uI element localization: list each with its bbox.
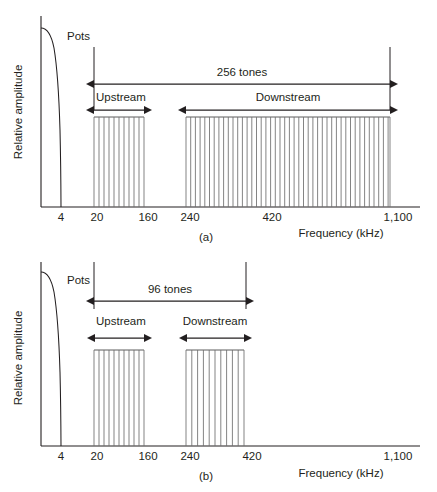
x-tick-label-b-2: 160 [138,450,157,462]
x-tick-label-a-3: 240 [180,211,199,223]
x-tick-label-a-1: 20 [91,211,104,223]
downstream-tone-comb-a [186,117,390,207]
pots-label-b: Pots [67,274,90,286]
x-tick-label-a-0: 4 [58,211,65,223]
x-tick-label-a-4: 420 [262,211,281,223]
pots-curve-a [41,28,61,207]
upstream-tone-comb-a [94,117,144,207]
x-tick-label-a-5: 1,100 [384,211,413,223]
pots-label-a: Pots [67,30,90,42]
upstream-label-b: Upstream [96,315,146,327]
x-tick-label-b-4: 420 [242,450,261,462]
panel-b-chart: Relative amplitude Pots 96 tones Upstrea… [0,246,437,492]
panel-b: Relative amplitude Pots 96 tones Upstrea… [0,246,437,492]
x-tick-label-b-5: 1,100 [384,450,413,462]
upstream-label-a: Upstream [96,91,146,103]
panel-caption-a: (a) [199,231,213,243]
y-axis-title-b: Relative amplitude [12,311,24,406]
panel-caption-b: (b) [199,470,213,482]
x-tick-label-b-1: 20 [91,450,104,462]
x-axis-title-a: Frequency (kHz) [299,227,384,239]
pots-curve-b [41,272,61,446]
downstream-label-b: Downstream [183,315,248,327]
x-tick-label-b-3: 240 [180,450,199,462]
downstream-label-a: Downstream [256,91,321,103]
x-tick-label-b-0: 4 [58,450,65,462]
y-axis-title-a: Relative amplitude [12,65,24,160]
adsl-spectrum-figure: Relative amplitude Pots 256 tones Upstre… [0,0,437,492]
x-axis-title-b: Frequency (kHz) [299,467,384,479]
upstream-tone-comb-b [94,350,144,446]
panel-a: Relative amplitude Pots 256 tones Upstre… [0,0,437,246]
panel-a-chart: Relative amplitude Pots 256 tones Upstre… [0,0,437,246]
x-tick-label-a-2: 160 [138,211,157,223]
downstream-tone-comb-b [186,350,244,446]
tones-count-label-a: 256 tones [217,66,268,78]
tones-count-label-b: 96 tones [148,283,192,295]
